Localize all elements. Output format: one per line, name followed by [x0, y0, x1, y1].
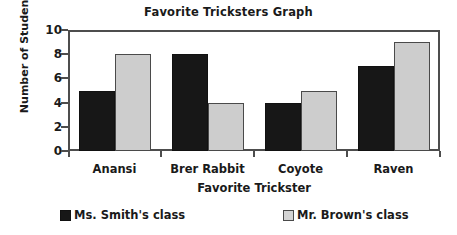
legend-swatch-icon — [60, 210, 71, 221]
x-axis-title: Favorite Trickster — [68, 181, 440, 195]
bar — [115, 54, 151, 151]
x-axis-tick-mark — [253, 151, 255, 157]
legend-swatch-icon — [283, 210, 294, 221]
bar — [265, 103, 301, 151]
bar — [394, 42, 430, 151]
legend-label: Mr. Brown's class — [297, 208, 409, 222]
bar — [208, 103, 244, 151]
x-axis-tick-mark — [68, 151, 70, 157]
y-axis-tick-mark — [61, 102, 68, 104]
y-axis-tick-label: 8 — [40, 48, 62, 60]
x-axis-tick-label: Anansi — [68, 162, 161, 176]
y-axis-tick-label: 6 — [40, 72, 62, 84]
y-axis-tick-labels: 0246810 — [36, 30, 62, 151]
x-axis-tick-label: Raven — [347, 162, 440, 176]
y-axis-title: Number of Students — [18, 0, 31, 121]
y-axis-tick-mark — [61, 29, 68, 31]
x-axis-tick-label: Brer Rabbit — [161, 162, 254, 176]
legend-entry-ms-smiths-class: Ms. Smith's class — [60, 208, 185, 222]
x-axis-tick-mark — [346, 151, 348, 157]
legend-entry-mr-browns-class: Mr. Brown's class — [283, 208, 409, 222]
bar — [358, 66, 394, 151]
bar — [79, 91, 115, 152]
y-axis-tick-mark — [61, 53, 68, 55]
y-axis-tick-mark — [61, 126, 68, 128]
bar — [172, 54, 208, 151]
x-axis-tick-mark — [439, 151, 441, 157]
y-axis-tick-label: 0 — [40, 145, 62, 157]
legend-label: Ms. Smith's class — [74, 208, 185, 222]
legend: Ms. Smith's class Mr. Brown's class — [0, 208, 457, 228]
chart-title: Favorite Tricksters Graph — [0, 5, 457, 19]
y-axis-tick-label: 10 — [40, 24, 62, 36]
y-axis-tick-mark — [61, 77, 68, 79]
bar — [301, 91, 337, 152]
x-axis-tick-mark — [160, 151, 162, 157]
y-axis-tick-label: 2 — [40, 121, 62, 133]
y-axis-tick-mark — [61, 150, 68, 152]
y-axis-tick-label: 4 — [40, 97, 62, 109]
plot-area — [68, 30, 440, 151]
bar-chart: Favorite Tricksters Graph Number of Stud… — [0, 0, 457, 235]
x-axis-tick-label: Coyote — [254, 162, 347, 176]
